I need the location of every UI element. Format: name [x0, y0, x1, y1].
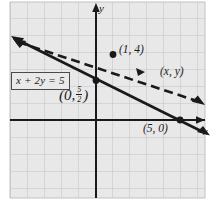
- x-axis-label: x: [203, 126, 208, 137]
- point-label-5-0: (5, 0): [143, 123, 168, 135]
- fraction-numerator: 5: [76, 86, 82, 94]
- point-marker-1-4: [110, 51, 117, 58]
- point-marker-y-intercept: [93, 77, 100, 84]
- point-label-x-y: (x, y): [160, 66, 184, 78]
- y-intercept-open-paren: (0,: [59, 88, 75, 103]
- fraction-denominator: 2: [76, 96, 82, 104]
- y-axis-label: y: [99, 3, 104, 14]
- graph-canvas: [0, 0, 214, 213]
- grid-background: [10, 2, 205, 198]
- point-label-1-4: (1, 4): [119, 44, 144, 56]
- fraction-five-halves: 5 2: [76, 86, 82, 105]
- y-intercept-close-paren: ): [83, 88, 88, 103]
- point-marker-x-intercept: [177, 117, 184, 124]
- y-intercept-label: (0, 5 2 ): [59, 86, 88, 105]
- coordinate-plane-figure: x + 2y = 5 (0, 5 2 ) (1, 4) (x, y) (5, 0…: [0, 0, 214, 213]
